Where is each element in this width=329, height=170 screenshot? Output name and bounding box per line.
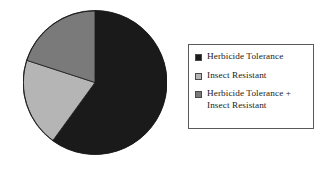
legend-item-insect-resistant: Insect Resistant xyxy=(195,70,308,82)
pie-chart-figure: Herbicide Tolerance Insect Resistant Her… xyxy=(0,0,329,170)
legend-swatch-herbicide-tolerance-insect-resistant xyxy=(195,91,202,98)
legend-label-herbicide-tolerance-insect-resistant: Herbicide Tolerance + Insect Resistant xyxy=(207,88,291,111)
pie-chart-graphic xyxy=(23,10,167,155)
legend-swatch-insect-resistant xyxy=(195,73,202,80)
legend-label-herbicide-tolerance: Herbicide Tolerance xyxy=(207,51,283,63)
legend-item-herbicide-tolerance-insect-resistant: Herbicide Tolerance + Insect Resistant xyxy=(195,88,308,111)
pie-svg xyxy=(23,10,167,155)
chart-legend: Herbicide Tolerance Insect Resistant Her… xyxy=(188,44,314,129)
legend-item-herbicide-tolerance: Herbicide Tolerance xyxy=(195,51,308,63)
legend-label-insect-resistant: Insect Resistant xyxy=(207,70,267,82)
legend-swatch-herbicide-tolerance xyxy=(195,54,202,61)
